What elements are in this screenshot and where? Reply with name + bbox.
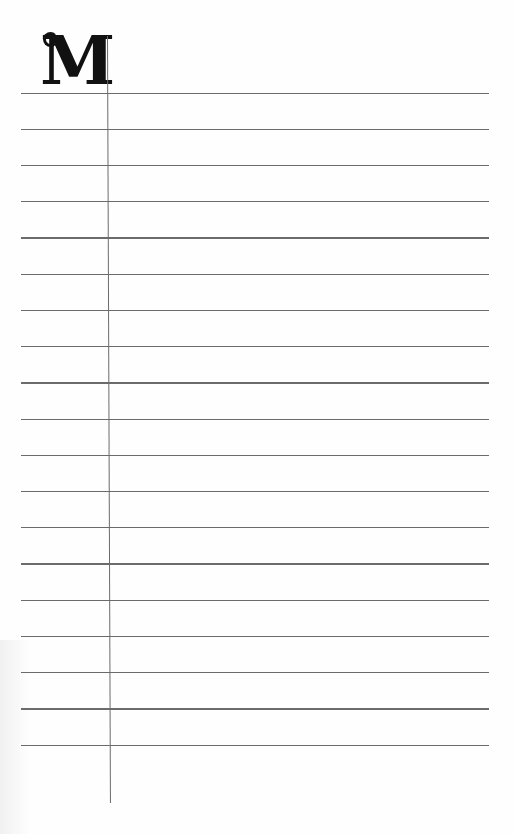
ruled-line	[21, 310, 489, 311]
ruled-line	[21, 165, 489, 166]
notebook-page: M	[0, 0, 515, 834]
ruled-line	[21, 419, 489, 420]
ruled-line	[21, 672, 489, 673]
ruled-line	[21, 274, 489, 275]
ruled-line	[21, 563, 489, 564]
ruled-line	[21, 201, 489, 202]
initial-swash-ornament	[43, 32, 58, 47]
ruled-line	[21, 237, 489, 238]
decorative-initial-letter: M	[40, 26, 113, 94]
ruled-line	[21, 600, 489, 601]
ruled-line	[21, 382, 489, 383]
ruled-line	[21, 708, 489, 709]
ruled-line	[21, 491, 489, 492]
ruled-line	[21, 455, 489, 456]
ruled-line	[21, 636, 489, 637]
ruled-line	[21, 129, 489, 130]
ruled-line	[21, 346, 489, 347]
ruled-line	[21, 745, 489, 746]
page-edge-shadow	[0, 640, 30, 834]
ruled-line	[21, 93, 489, 94]
ruled-line	[21, 527, 489, 528]
